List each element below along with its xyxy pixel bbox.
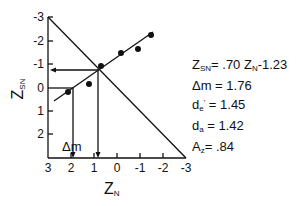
x-axis-label: ZN [104, 180, 120, 198]
x-tick: -3 [181, 161, 192, 175]
x-tick: 2 [68, 161, 75, 175]
x-tick: -1 [135, 161, 146, 175]
arrow-down-icon [96, 152, 101, 158]
y-tick: 2 [37, 127, 44, 141]
data-point [98, 63, 104, 69]
y-tick: 1 [37, 104, 44, 118]
arrow-left-icon [50, 68, 56, 73]
delta-m-marker-label: Δm [62, 139, 82, 154]
y-tick: -3 [33, 10, 44, 24]
de-prime-line: de' = 1.45 [192, 94, 287, 117]
y-tick: 0 [37, 81, 44, 95]
y-axis-label: ZSN [9, 79, 27, 100]
data-point [118, 50, 124, 56]
x-tick: 3 [45, 161, 52, 175]
x-tick: 1 [91, 161, 98, 175]
az-line: Az= .84 [192, 138, 287, 159]
x-tick: -2 [158, 161, 169, 175]
data-point [65, 89, 71, 95]
delta-m-line: Δm = 1.76 [192, 77, 287, 94]
data-point [135, 46, 141, 52]
data-point [86, 81, 92, 87]
x-tick: 0 [114, 161, 121, 175]
da-line: da = 1.42 [192, 117, 287, 138]
data-point [148, 32, 154, 38]
y-tick: -1 [33, 57, 44, 71]
y-tick: -2 [33, 34, 44, 48]
stats-panel: ZSN= .70 ZN-1.23 Δm = 1.76 de' = 1.45 da… [192, 56, 287, 159]
equation-line: ZSN= .70 ZN-1.23 [192, 56, 287, 77]
